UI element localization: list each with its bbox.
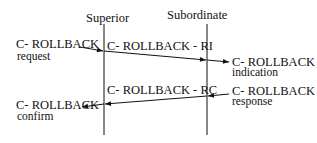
indication-line2: indication [232,67,278,79]
superior-label: Superior [86,12,129,25]
message-ri-label: C- ROLLBACK - RI [107,40,213,53]
subordinate-label: Subordinate [167,9,227,22]
confirm-line2: confirm [17,111,53,123]
message-rc-label: C- ROLLBACK - RC [107,84,217,97]
rollback-sequence-diagram: Superior Subordinate C- ROLLBACK - RI C-… [0,0,317,143]
indication-arrow [207,60,229,62]
request-line1: C- ROLLBACK [16,38,99,51]
message-rc-arrow [105,96,207,104]
response-line2: response [232,96,272,108]
request-line2: request [17,51,50,63]
